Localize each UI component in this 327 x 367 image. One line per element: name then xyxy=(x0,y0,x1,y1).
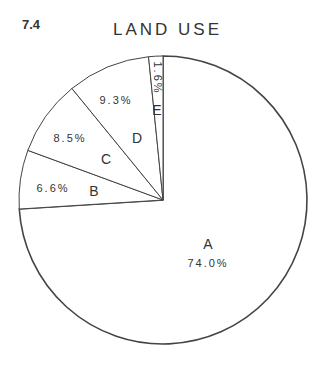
slice-label-e: E xyxy=(152,102,161,118)
slice-label-d: D xyxy=(132,130,142,146)
pie-chart: A74.0%B6.6%C8.5%D9.3%E1.6% xyxy=(0,0,327,367)
slice-label-c: C xyxy=(101,151,111,167)
slice-percent-c: 8.5% xyxy=(53,132,86,144)
slice-percent-d: 9.3% xyxy=(99,94,132,106)
slice-percent-e: 1.6% xyxy=(152,61,164,94)
slice-percent-a: 74.0% xyxy=(187,257,228,269)
slice-label-b: B xyxy=(89,183,98,199)
slice-percent-b: 6.6% xyxy=(36,182,69,194)
slice-label-a: A xyxy=(203,236,213,252)
pie-slices xyxy=(19,56,307,344)
